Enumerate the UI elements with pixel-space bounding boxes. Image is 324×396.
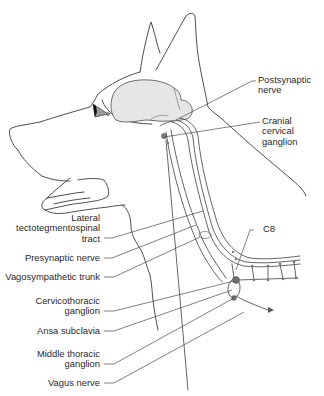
label-line: ganglion bbox=[37, 359, 100, 369]
brain bbox=[111, 80, 192, 122]
label-ansa-subclavia: Ansa subclavia bbox=[37, 326, 100, 336]
label-postsynaptic-nerve: Postsynaptic nerve bbox=[258, 75, 311, 96]
label-line: Vagosympathetic trunk bbox=[5, 272, 100, 282]
eye-icon bbox=[93, 104, 110, 117]
dog-outline bbox=[9, 13, 306, 330]
arrow-icon bbox=[268, 307, 274, 313]
label-cervicothoracic-ganglion: Cervicothoracic ganglion bbox=[35, 296, 100, 317]
label-vagus-nerve: Vagus nerve bbox=[48, 378, 100, 388]
label-line: ganglion bbox=[262, 137, 297, 147]
cervicothoracic-ganglion bbox=[233, 277, 240, 284]
label-line: nerve bbox=[258, 85, 311, 95]
label-line: ganglion bbox=[35, 306, 100, 316]
small-ganglion bbox=[167, 142, 170, 145]
label-presynaptic-nerve: Presynaptic nerve bbox=[25, 253, 100, 263]
label-middle-thoracic-ganglion: Middle thoracic ganglion bbox=[37, 349, 100, 370]
leader-lines bbox=[104, 81, 260, 383]
cranial-cervical-ganglion bbox=[161, 133, 166, 138]
label-lateral-tectotegmentospinal-tract: Lateral tectotegmentospinal tract bbox=[16, 213, 100, 244]
anatomy-diagram bbox=[0, 0, 324, 396]
label-line: tract bbox=[16, 234, 100, 244]
label-vagosympathetic-trunk: Vagosympathetic trunk bbox=[5, 272, 100, 282]
label-c8: C8 bbox=[263, 224, 275, 234]
label-line: Vagus nerve bbox=[48, 378, 100, 388]
label-line: C8 bbox=[263, 224, 275, 234]
label-line: Ansa subclavia bbox=[37, 326, 100, 336]
label-line: Presynaptic nerve bbox=[25, 253, 100, 263]
nerve-pathway bbox=[160, 118, 300, 390]
label-cranial-cervical-ganglion: Cranial cervical ganglion bbox=[262, 116, 297, 147]
